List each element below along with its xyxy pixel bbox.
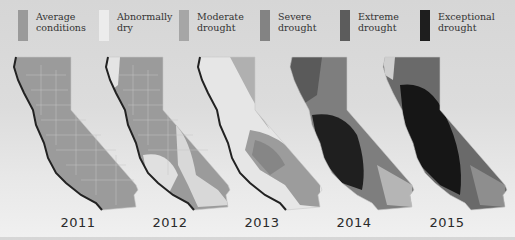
map-2011: 2011 [6,55,106,237]
legend-swatch [420,10,430,41]
legend-label: Abnormally dry [117,11,187,33]
legend-swatch [179,10,189,41]
legend-label: Extreme drought [358,11,428,33]
year-label: 2015 [417,215,477,230]
maps-row: 2011 2012 [0,55,511,237]
legend-swatch [340,10,350,41]
legend-swatch [99,10,109,41]
legend-swatch [260,10,270,41]
legend-label: Average conditions [36,11,106,33]
legend-label: Moderate drought [197,11,267,33]
map-2015: 2015 [375,55,475,237]
legend: Average conditions Abnormally dry Modera… [18,10,508,42]
map-2014: 2014 [282,55,382,237]
legend-label: Severe drought [278,11,348,33]
legend-swatch [18,10,28,41]
map-2012: 2012 [98,55,198,237]
map-2013: 2013 [190,55,290,237]
legend-label: Exceptional drought [438,11,508,33]
